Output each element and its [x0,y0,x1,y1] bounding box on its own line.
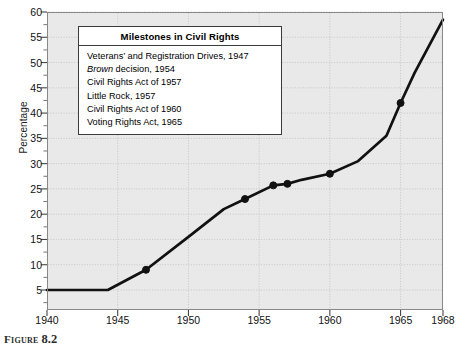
figure-caption: Figure 8.2 [4,332,57,347]
milestone-item: Little Rock, 1957 [87,90,281,103]
x-tick-label: 1945 [106,314,129,326]
x-tick-label: 1960 [318,314,341,326]
milestones-legend-box: Milestones in Civil Rights Veterans’ and… [78,26,282,135]
milestone-item: Voting Rights Act, 1965 [87,116,281,129]
y-axis-tick-labels: 51015202530354045505560 [0,0,42,354]
x-tick-label: 1968 [431,314,454,326]
y-tick-label: 60 [16,6,42,18]
milestone-item-text: Voting Rights Act, 1965 [87,117,182,127]
figure-container: Percentage 51015202530354045505560 19401… [0,0,461,354]
figure-caption-label: Figure [4,333,39,345]
y-tick-label: 5 [16,284,42,296]
x-tick-label: 1950 [177,314,200,326]
y-tick-label: 35 [16,132,42,144]
milestone-item-italic: Brown [87,64,113,74]
y-tick-label: 15 [16,233,42,245]
milestone-item-text: Civil Rights Act of 1960 [87,104,181,114]
milestone-item: Brown decision, 1954 [87,63,281,76]
data-point-marker [143,266,150,273]
data-point-marker [270,182,277,189]
y-tick-label: 20 [16,208,42,220]
y-tick-label: 55 [16,31,42,43]
milestone-item-text: Little Rock, 1957 [87,91,155,101]
y-tick-label: 40 [16,107,42,119]
figure-caption-number: 8.2 [42,332,58,346]
data-point-marker [326,170,333,177]
milestone-item-text: decision, 1954 [113,64,175,74]
data-point-marker [242,196,249,203]
milestones-title: Milestones in Civil Rights [79,27,281,46]
y-tick-label: 25 [16,183,42,195]
x-tick-label: 1955 [247,314,270,326]
milestone-item: Civil Rights Act of 1957 [87,76,281,89]
milestones-list: Veterans’ and Registration Drives, 1947B… [79,46,281,134]
y-tick-label: 30 [16,158,42,170]
y-tick-label: 10 [16,259,42,271]
milestone-item-text: Civil Rights Act of 1957 [87,77,181,87]
milestone-item-text: Veterans’ and Registration Drives, 1947 [87,51,249,61]
milestone-item: Civil Rights Act of 1960 [87,103,281,116]
milestone-item: Veterans’ and Registration Drives, 1947 [87,50,281,63]
y-tick-label: 45 [16,82,42,94]
y-tick-label: 50 [16,57,42,69]
x-tick-label: 1965 [389,314,412,326]
data-point-marker [284,180,291,187]
x-tick-label: 1940 [35,314,58,326]
data-point-marker [397,99,404,106]
